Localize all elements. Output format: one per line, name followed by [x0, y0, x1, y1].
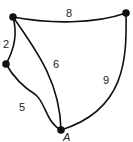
edge-9: [61, 13, 126, 130]
edge-label-6: 6: [53, 58, 59, 70]
node-top-left: [9, 13, 17, 21]
node-left-mid: [2, 60, 10, 68]
edge-label-2: 2: [3, 38, 9, 50]
edge-6: [13, 17, 61, 130]
node-label-a: A: [62, 131, 70, 142]
node-top-right: [122, 9, 130, 17]
edge-label-9: 9: [103, 74, 109, 86]
edge-5: [6, 64, 61, 130]
edge-label-8: 8: [66, 7, 72, 19]
edge-label-5: 5: [19, 101, 25, 113]
graph-diagram: 8 2 6 9 5 A: [0, 0, 133, 142]
